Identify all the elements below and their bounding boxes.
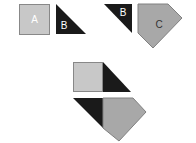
triangle-b-left: B bbox=[56, 4, 86, 34]
label-b-right: B bbox=[120, 7, 127, 18]
label-a: A bbox=[31, 14, 38, 25]
square-a: A bbox=[20, 5, 50, 35]
bottom-composite bbox=[73, 98, 146, 141]
label-b-left: B bbox=[61, 20, 68, 31]
label-c: C bbox=[155, 19, 162, 30]
top-composite bbox=[74, 62, 132, 92]
shapes-diagram: A B B C bbox=[0, 0, 196, 143]
triangle-b-right: B bbox=[104, 4, 132, 33]
pentagon-c: C bbox=[138, 4, 182, 48]
